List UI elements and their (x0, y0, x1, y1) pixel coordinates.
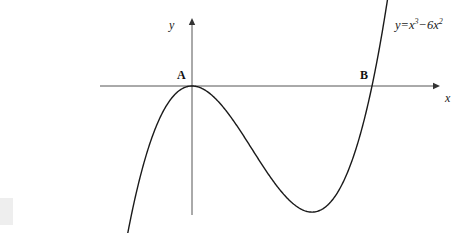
y-axis-group (189, 18, 195, 215)
x-axis-group (100, 83, 440, 89)
function-graph-figure: y x A B y=x3−6x2 (0, 0, 463, 233)
x-axis-arrowhead (433, 83, 440, 89)
point-label-a: A (177, 69, 186, 81)
curve-equation-label: y=x3−6x2 (395, 19, 443, 32)
y-axis-arrowhead (189, 18, 195, 25)
equation-part-term2: −6x (419, 18, 439, 32)
x-axis-label: x (445, 92, 450, 104)
equation-exponent-2: 2 (439, 17, 443, 26)
graph-canvas (0, 0, 463, 233)
equation-part-base: y=x (395, 18, 415, 32)
y-axis-label: y (169, 19, 174, 31)
point-label-b: B (360, 69, 368, 81)
cubic-curve (128, 0, 392, 233)
